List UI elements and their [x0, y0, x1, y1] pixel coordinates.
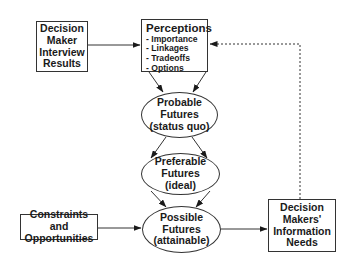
perceptions-item-options: - Options [146, 64, 184, 74]
possible-futures-ellipse: Possible Futures (attainable) [142, 206, 221, 253]
constraints-line-1: Constraints and [21, 209, 97, 233]
interview-line-4: Results [43, 58, 81, 70]
perceptions-title: Perceptions [146, 22, 212, 35]
interview-line-2: Maker [47, 35, 77, 47]
info-needs-line-1: Decision [280, 202, 324, 214]
arrow-perceptions-to-probable-left [149, 72, 163, 92]
probable-line-3: (status quo) [149, 121, 209, 133]
info-needs-line-2: Makers' [283, 214, 322, 226]
information-needs-box: Decision Makers' Information Needs [268, 199, 336, 252]
info-needs-line-4: Needs [286, 237, 318, 249]
constraints-opportunities-box: Constraints and Opportunities [20, 214, 98, 240]
interview-line-1: Decision [40, 23, 84, 35]
decision-maker-interview-box: Decision Maker Interview Results [36, 21, 88, 72]
constraints-line-2: Opportunities [25, 233, 94, 245]
probable-futures-ellipse: Probable Futures (status quo) [141, 92, 218, 138]
possible-line-3: (attainable) [153, 235, 209, 247]
feedback-dotted-line [210, 44, 300, 199]
preferable-futures-ellipse: Preferable Futures (ideal) [141, 153, 220, 195]
arrow-preferable-to-possible-right [196, 191, 210, 207]
diagram-canvas: Decision Maker Interview Results Percept… [0, 0, 352, 268]
arrow-perceptions-to-probable-right [193, 72, 206, 92]
arrow-preferable-to-possible-left [151, 191, 166, 207]
possible-line-1: Possible [160, 212, 203, 224]
preferable-line-3: (ideal) [165, 180, 196, 192]
perceptions-box: Perceptions - Importance - Linkages - Tr… [141, 19, 208, 72]
